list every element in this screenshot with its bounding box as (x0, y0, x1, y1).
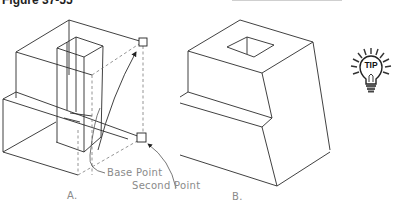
tip-text: TIP (364, 60, 378, 70)
second-point-label: Second Point (132, 180, 200, 191)
drawing-b-label: B. (232, 191, 243, 202)
base-point-label: Base Point (107, 167, 162, 178)
drawing-a: Base Point Second Point A. (3, 20, 200, 201)
second-point-marker (139, 38, 147, 46)
tip-lightbulb-icon: TIP (351, 48, 391, 93)
figure-canvas: Base Point Second Point A. B. (0, 0, 396, 206)
drawing-a-label: A. (67, 190, 77, 201)
base-point-marker (137, 133, 146, 142)
drawing-b: B. (180, 20, 330, 202)
